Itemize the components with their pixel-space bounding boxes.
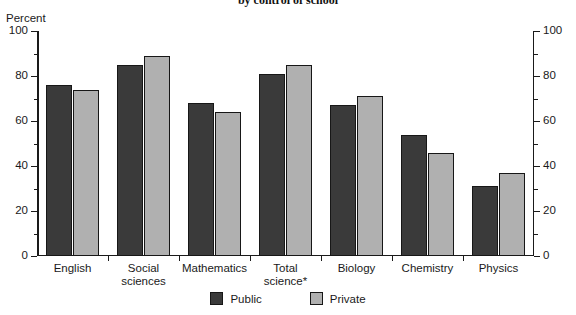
x-axis-group-tick bbox=[250, 256, 251, 261]
axis-tick-major bbox=[31, 76, 37, 77]
legend-item-private: Private bbox=[310, 292, 366, 305]
axis-tick-major bbox=[31, 121, 37, 122]
axis-tick-minor bbox=[34, 144, 38, 145]
bar-public bbox=[401, 135, 427, 257]
x-axis-group-tick bbox=[321, 256, 322, 261]
y-axis-unit-label: Percent bbox=[6, 12, 46, 24]
axis-tick-major bbox=[31, 211, 37, 212]
axis-tick-major bbox=[534, 166, 540, 167]
x-axis-category-label: Total science* bbox=[264, 262, 307, 287]
x-axis-category-label: Mathematics bbox=[182, 262, 247, 275]
x-axis-group-tick bbox=[392, 256, 393, 261]
chart-title: by control of school bbox=[0, 0, 576, 8]
bar-chart: by control of school Percent 00202040406… bbox=[0, 0, 576, 315]
axis-tick-minor bbox=[34, 189, 38, 190]
axis-tick-minor bbox=[34, 234, 38, 235]
bar-public bbox=[472, 186, 498, 256]
x-axis-category-label: Physics bbox=[479, 262, 519, 275]
bar-private bbox=[286, 65, 312, 256]
x-axis-group-tick bbox=[463, 256, 464, 261]
axis-tick-major bbox=[31, 31, 37, 32]
y-axis-right-tick-label: 40 bbox=[543, 160, 556, 172]
legend-swatch-private bbox=[310, 292, 323, 305]
bar-public bbox=[46, 85, 72, 256]
axis-tick-major bbox=[31, 166, 37, 167]
bar-private bbox=[215, 112, 241, 256]
x-axis-category-label: Biology bbox=[338, 262, 376, 275]
y-axis-right-tick-label: 0 bbox=[543, 250, 549, 262]
y-axis-right-tick-label: 20 bbox=[543, 205, 556, 217]
x-axis-category-label: Chemistry bbox=[402, 262, 454, 275]
bar-private bbox=[73, 90, 99, 257]
axis-tick-minor bbox=[534, 234, 538, 235]
legend-label: Private bbox=[330, 293, 366, 305]
axis-tick-minor bbox=[534, 189, 538, 190]
plot-area: 002020404060608080100100 bbox=[37, 31, 534, 256]
y-axis-left-tick-label: 60 bbox=[15, 115, 28, 127]
axis-tick-minor bbox=[534, 99, 538, 100]
y-axis-right-tick-label: 60 bbox=[543, 115, 556, 127]
bar-public bbox=[188, 103, 214, 256]
bar-public bbox=[117, 65, 143, 256]
axis-tick-major bbox=[534, 211, 540, 212]
bar-private bbox=[357, 96, 383, 256]
axis-tick-major bbox=[534, 256, 540, 257]
x-axis-group-tick bbox=[108, 256, 109, 261]
bar-public bbox=[259, 74, 285, 256]
legend-item-public: Public bbox=[210, 292, 261, 305]
axis-tick-major bbox=[534, 31, 540, 32]
axis-tick-minor bbox=[34, 54, 38, 55]
y-axis-left-tick-label: 100 bbox=[9, 25, 28, 37]
axis-tick-minor bbox=[534, 54, 538, 55]
legend-swatch-public bbox=[210, 292, 223, 305]
bar-private bbox=[428, 153, 454, 257]
axis-tick-major bbox=[31, 256, 37, 257]
y-axis-left-tick-label: 40 bbox=[15, 160, 28, 172]
bar-public bbox=[330, 105, 356, 256]
axis-tick-minor bbox=[34, 99, 38, 100]
axis-tick-major bbox=[534, 76, 540, 77]
y-axis-left-line bbox=[37, 31, 39, 256]
y-axis-right-tick-label: 80 bbox=[543, 70, 556, 82]
y-axis-left-tick-label: 20 bbox=[15, 205, 28, 217]
axis-tick-minor bbox=[534, 144, 538, 145]
y-axis-left-tick-label: 0 bbox=[22, 250, 28, 262]
legend-label: Public bbox=[230, 293, 261, 305]
x-axis-group-tick bbox=[179, 256, 180, 261]
axis-tick-major bbox=[534, 121, 540, 122]
y-axis-right-tick-label: 100 bbox=[543, 25, 562, 37]
bar-private bbox=[499, 173, 525, 256]
y-axis-left-tick-label: 80 bbox=[15, 70, 28, 82]
x-axis-category-label: English bbox=[54, 262, 92, 275]
x-axis-category-label: Social sciences bbox=[121, 262, 166, 287]
bar-private bbox=[144, 56, 170, 256]
chart-legend: PublicPrivate bbox=[0, 292, 576, 305]
